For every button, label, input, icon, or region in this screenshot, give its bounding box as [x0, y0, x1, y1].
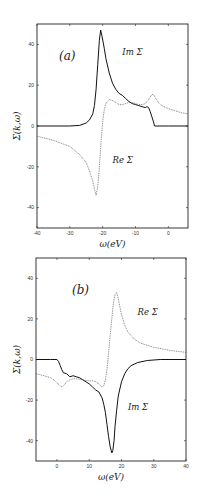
x-tick-label: -40 [33, 230, 40, 236]
y-tick-label: 0 [30, 356, 33, 362]
re-sigma-curve [37, 94, 188, 195]
x-tick-label: 0 [56, 463, 59, 469]
y-tick-label: 40 [27, 275, 33, 281]
re-sigma-curve [36, 293, 186, 387]
y-tick-label: -40 [26, 438, 33, 444]
im-sigma-curve [36, 360, 186, 453]
curve-label: Im Σ [127, 402, 149, 412]
x-axis-label: ω(eV) [98, 472, 125, 482]
chart-figure: -40-30-20-100-40-2002040Im ΣRe Σ(a)ω(eV)… [0, 0, 198, 503]
x-tick-label: 20 [119, 463, 125, 469]
curve-label: Im Σ [121, 47, 143, 57]
panel-a: -40-30-20-100-40-2002040Im ΣRe Σ(a)ω(eV)… [12, 24, 188, 249]
x-tick-label: -10 [132, 230, 139, 236]
x-tick-label: 0 [167, 230, 170, 236]
x-axis-label: ω(eV) [99, 239, 126, 249]
y-tick-label: 0 [31, 123, 34, 129]
y-tick-label: -20 [27, 164, 34, 170]
im-sigma-curve [37, 30, 188, 126]
y-tick-label: 20 [28, 82, 34, 88]
y-axis-label: Σ(k,ω) [12, 344, 22, 375]
panel-label: (b) [72, 283, 89, 297]
panel-label: (a) [59, 49, 76, 63]
x-tick-label: 30 [151, 463, 157, 469]
x-tick-label: 40 [183, 463, 189, 469]
curve-label: Re Σ [137, 307, 159, 317]
y-axis-label: Σ(k,ω) [12, 111, 22, 142]
y-tick-label: -20 [26, 397, 33, 403]
y-tick-label: 40 [28, 41, 34, 47]
y-tick-label: 20 [27, 316, 33, 322]
x-tick-label: 10 [86, 463, 92, 469]
panel-b: 010203040-40-2002040Re ΣIm Σ(b)ω(eV)Σ(k,… [12, 258, 189, 482]
x-tick-label: -20 [99, 230, 106, 236]
y-tick-label: -40 [27, 204, 34, 210]
curve-label: Re Σ [112, 155, 134, 165]
x-tick-label: -30 [66, 230, 73, 236]
